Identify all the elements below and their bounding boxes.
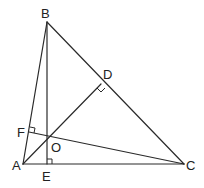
- altitudes: [23, 22, 184, 164]
- label-o: O: [51, 140, 61, 155]
- label-a: A: [12, 158, 21, 173]
- right-angle-marks: [30, 88, 105, 164]
- side-bc: [47, 22, 184, 164]
- label-f: F: [17, 125, 25, 140]
- label-b: B: [41, 6, 50, 21]
- label-d: D: [103, 67, 112, 82]
- point-labels: A B C D E F O: [12, 6, 195, 184]
- label-c: C: [186, 158, 195, 173]
- right-angle-mark-d: [97, 88, 105, 92]
- right-angle-mark-e: [47, 159, 52, 164]
- geometry-diagram: A B C D E F O: [0, 0, 204, 188]
- label-e: E: [42, 169, 51, 184]
